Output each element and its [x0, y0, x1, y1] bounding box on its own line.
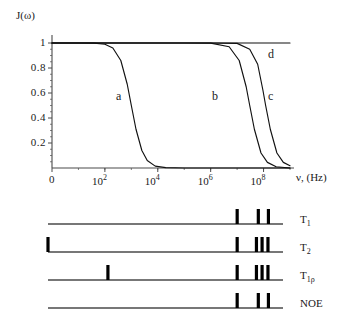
curve-label-b: b	[212, 90, 218, 102]
y-tick-label: 0.4	[14, 112, 46, 123]
row-label-T2: T2	[300, 242, 311, 256]
spectral-density-plot	[0, 0, 340, 200]
y-tick-label: 1	[14, 37, 46, 48]
curve-b	[52, 43, 290, 168]
curve-a	[52, 43, 290, 168]
y-tick-label: 0.2	[14, 137, 46, 148]
row-label-T1: T1	[300, 214, 311, 228]
x-tick-label: 108	[251, 174, 266, 187]
y-axis-label: J(ω)	[16, 10, 35, 21]
curve-label-d: d	[268, 48, 274, 60]
relaxation-timescale-bars	[0, 200, 340, 322]
x-tick-label: 106	[198, 174, 213, 187]
row-label-NOE: NOE	[300, 298, 323, 309]
curve-c	[52, 43, 290, 166]
curve-label-a: a	[116, 90, 121, 102]
x-tick-label: 104	[145, 174, 160, 187]
curve-label-c: c	[268, 90, 273, 102]
nmr-spectral-density-figure: J(ω) 10.80.60.40.2 0102104106108 ν, (Hz)…	[0, 0, 340, 322]
x-tick-label: 0	[49, 174, 55, 185]
x-axis-label: ν, (Hz)	[296, 172, 327, 183]
row-label-T1rho: T1ρ	[300, 270, 315, 284]
x-tick-label: 102	[92, 174, 107, 187]
y-tick-label: 0.6	[14, 87, 46, 98]
y-tick-label: 0.8	[14, 62, 46, 73]
